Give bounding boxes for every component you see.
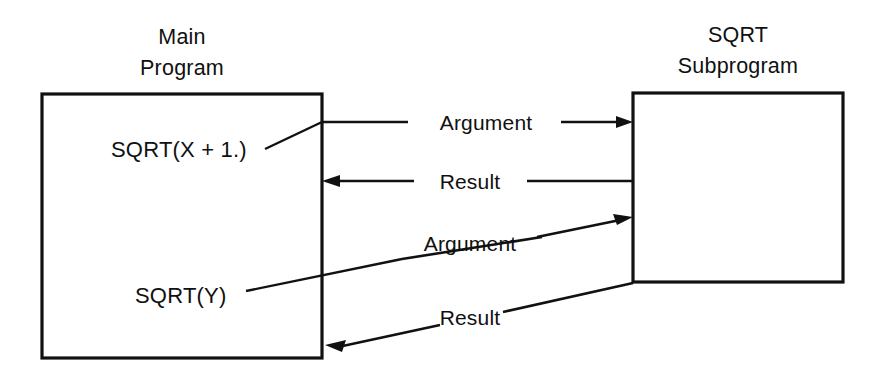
- subprogram-call-diagram: Main Program SQRT Subprogram SQRT(X + 1.…: [0, 0, 883, 389]
- flow-2-arrowhead-left: [322, 175, 340, 187]
- leader-line-call-2: [246, 259, 402, 291]
- flow-4-line-left: [338, 325, 440, 347]
- main-program-box: [42, 94, 322, 358]
- flow-3-arrowhead-right: [613, 214, 633, 225]
- sqrt-subprogram-box: [633, 93, 843, 282]
- flow-1-arrowhead-right: [616, 116, 633, 128]
- sqrt-subprogram-title-line2: Subprogram: [678, 54, 798, 78]
- leader-line-call-1: [265, 122, 322, 149]
- main-program-title-line1: Main: [158, 25, 205, 49]
- flow-3-label: Argument: [424, 232, 517, 255]
- sqrt-subprogram-title-line1: SQRT: [708, 23, 768, 47]
- flow-3-line-right: [537, 219, 625, 237]
- call-statement-sqrt-x-plus-1: SQRT(X + 1.): [111, 137, 247, 162]
- main-program-title-line2: Program: [140, 56, 224, 80]
- flow-1-label: Argument: [440, 111, 533, 134]
- call-statement-sqrt-y: SQRT(Y): [135, 283, 226, 308]
- flow-4-label: Result: [440, 306, 501, 329]
- flow-2-label: Result: [440, 170, 501, 193]
- diagram-canvas: Main Program SQRT Subprogram SQRT(X + 1.…: [0, 0, 883, 389]
- flow-4-line-right: [503, 283, 633, 312]
